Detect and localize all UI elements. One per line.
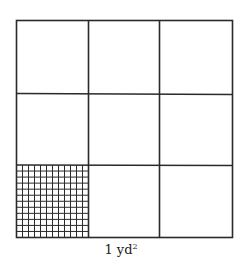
square-yard-grid bbox=[17, 21, 233, 238]
area-grid-diagram bbox=[0, 0, 242, 268]
square-foot-inch-grid bbox=[17, 165, 89, 238]
diagram: 1 yd2 bbox=[0, 0, 242, 268]
grid-line-h2 bbox=[17, 165, 233, 166]
outer-square bbox=[17, 21, 233, 238]
label-text: 1 yd bbox=[104, 242, 132, 257]
grid-line-h1 bbox=[17, 94, 233, 95]
label-exponent: 2 bbox=[132, 242, 137, 251]
area-label: 1 yd2 bbox=[0, 242, 242, 257]
